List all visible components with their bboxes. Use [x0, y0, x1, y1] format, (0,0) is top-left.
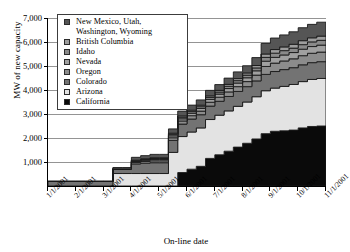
- legend-swatch-icon: [64, 39, 70, 45]
- y-axis-tick-label: 4,000: [6, 86, 42, 95]
- y-axis-tick-label: 2,000: [6, 134, 42, 143]
- legend-item-label: New Mexico, Utah, Washington, Wyoming: [76, 17, 152, 36]
- legend-item-label: Nevada: [76, 57, 101, 67]
- legend-item: New Mexico, Utah, Washington, Wyoming: [61, 17, 184, 37]
- legend-swatch-icon: [64, 49, 70, 55]
- legend-item-label: California: [76, 97, 110, 107]
- legend-swatch-icon: [64, 19, 70, 25]
- y-axis-tick-label: 3,000: [6, 110, 42, 119]
- legend-item-label: Idaho: [76, 47, 95, 57]
- legend-swatch-icon: [64, 99, 70, 105]
- legend-item: Oregon: [61, 67, 184, 77]
- legend-item-label: Oregon: [76, 67, 101, 77]
- legend-item: Nevada: [61, 57, 184, 67]
- legend-item: Idaho: [61, 47, 184, 57]
- legend-item-label: Colorado: [76, 77, 107, 87]
- legend-item: California: [61, 97, 184, 107]
- legend-swatch-icon: [64, 69, 70, 75]
- legend-swatch-icon: [64, 79, 70, 85]
- legend-item-label: British Columbia: [76, 37, 133, 47]
- x-axis-title: On-line date: [47, 236, 325, 246]
- legend-item: Colorado: [61, 77, 184, 87]
- legend-swatch-icon: [64, 89, 70, 95]
- x-axis-tick-label: 11/1/2001: [323, 172, 350, 199]
- y-axis-tick-label: 1,000: [6, 158, 42, 167]
- legend-item-label: Arizona: [76, 87, 103, 97]
- chart-legend: New Mexico, Utah, Washington, WyomingBri…: [57, 14, 188, 110]
- legend-item: Arizona: [61, 87, 184, 97]
- legend-item: British Columbia: [61, 37, 184, 47]
- legend-swatch-icon: [64, 59, 70, 65]
- y-axis-tick-label: 5,000: [6, 62, 42, 71]
